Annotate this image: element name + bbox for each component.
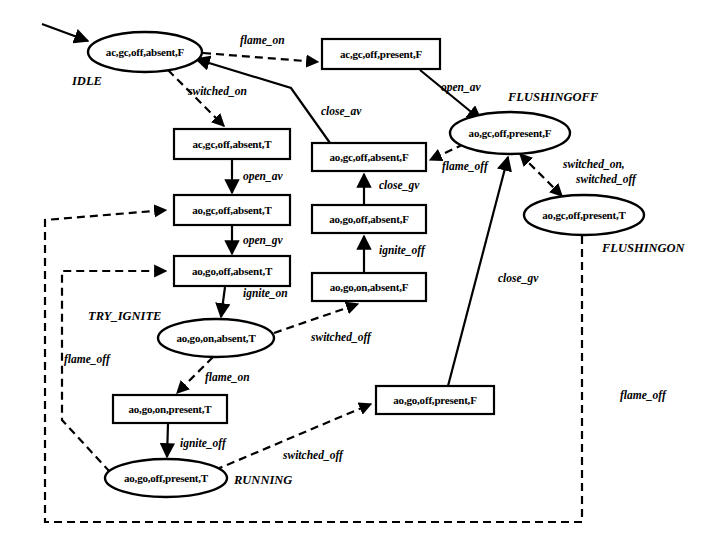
idle-label: ac,gc,off,absent,F (106, 46, 185, 58)
edge-label-switched-on-2: switched_on, (562, 158, 625, 170)
edge-label-flame-on-2: flame_on (205, 371, 250, 384)
edge-label-close-gv-1: close_gv (379, 179, 420, 192)
edge-switched-on-idle (168, 70, 224, 126)
state-name-running: RUNNING (233, 473, 292, 487)
ao-gc-absent-t-label: ao,gc,off,absent,T (192, 204, 272, 216)
edge-open-av-1 (420, 70, 481, 120)
state-node-ao-go-on-absent-f[interactable]: ao,go,on,absent,F (312, 273, 426, 301)
state-node-ac-gc-off-absent-t[interactable]: ac,gc,off,absent,T (174, 129, 290, 159)
state-node-idle[interactable]: ac,gc,off,absent,F (88, 32, 202, 72)
state-name-flushingoff: FLUSHINGOFF (507, 90, 599, 104)
state-node-running[interactable]: ao,go,off,present,T (105, 459, 227, 497)
state-node-flushingon[interactable]: ao,gc,off,present,T (524, 195, 644, 235)
state-node-flushingoff[interactable]: ao,gc,off,present,F (450, 112, 570, 154)
state-node-ao-go-off-absent-t[interactable]: ao,go,off,absent,T (174, 256, 290, 286)
edge-label-flame-off-3: flame_off (620, 389, 667, 402)
edge-label-open-av-1: open_av (441, 81, 482, 94)
ao-gc-absent-f-label: ao,gc,off,absent,F (330, 151, 409, 163)
state-node-ao-go-off-present-f[interactable]: ao,go,off,present,F (376, 386, 494, 414)
state-transition-diagram: flame_on switched_on open_av close_av op… (0, 0, 717, 558)
edge-label-switched-off-3: switched_off (282, 449, 344, 462)
edge-label-flame-on-1: flame_on (240, 34, 285, 47)
state-node-try-ignite[interactable]: ao,go,on,absent,T (158, 319, 274, 357)
state-node-ac-gc-off-present-f[interactable]: ac,gc,off,present,F (322, 39, 440, 69)
edge-label-switched-on-1: switched_on (187, 85, 247, 97)
edge-label-open-av-2: open_av (243, 170, 284, 183)
state-name-idle: IDLE (71, 74, 102, 88)
edge-flame-off-1 (430, 144, 464, 160)
state-node-ao-gc-off-absent-t[interactable]: ao,gc,off,absent,T (174, 195, 290, 225)
flushingoff-label: ao,gc,off,present,F (469, 127, 552, 139)
edge-switched-off-1 (274, 304, 358, 333)
edge-ignite-off-1 (167, 424, 168, 457)
edge-label-switched-off-2: switched_off (575, 173, 637, 186)
ao-go-on-abs-f-label: ao,go,on,absent,F (330, 281, 409, 293)
edge-label-open-gv: open_gv (243, 234, 284, 247)
ao-go-off-pres-f-label: ao,go,off,present,F (393, 394, 477, 406)
ao-go-on-pres-label: ao,go,on,present,T (129, 403, 213, 415)
edge-label-close-gv-2: close_gv (498, 272, 539, 285)
edge-ignite-on (221, 287, 225, 317)
edge-flame-on-idle (203, 53, 318, 62)
ao-go-absent-f-label: ao,go,off,absent,F (329, 213, 409, 225)
ac-absent-t-label: ac,gc,off,absent,T (193, 138, 273, 150)
ac-present-f-label: ac,gc,off,present,F (340, 48, 423, 60)
state-name-flushingon: FLUSHINGON (601, 241, 686, 255)
flushingon-label: ao,gc,off,present,T (542, 209, 626, 221)
edge-label-ignite-on: ignite_on (243, 287, 288, 300)
state-node-ao-go-on-present-t[interactable]: ao,go,on,present,T (113, 395, 227, 423)
edge-label-flame-off-1: flame_off (442, 160, 489, 173)
diagram-canvas: flame_on switched_on open_av close_av op… (0, 0, 717, 558)
edge-label-ignite-off-2: ignite_off (379, 244, 426, 257)
state-name-try-ignite: TRY_IGNITE (88, 309, 161, 323)
edge-switched-on-off (520, 154, 562, 196)
edge-initial-arrow (42, 24, 88, 41)
edge-label-flame-off-2: flame_off (64, 353, 111, 366)
edge-label-ignite-off-1: ignite_off (180, 437, 227, 450)
edge-flame-off-2 (62, 271, 166, 472)
edge-label-close-av: close_av (321, 105, 362, 117)
edge-label-switched-off-1: switched_off (310, 331, 372, 344)
state-node-ao-go-off-absent-f[interactable]: ao,go,off,absent,F (312, 205, 426, 233)
try-ignite-label: ao,go,on,absent,T (176, 332, 256, 344)
state-node-ao-gc-off-absent-f[interactable]: ao,gc,off,absent,F (312, 143, 426, 171)
ao-go-absent-t-label: ao,go,off,absent,T (192, 265, 273, 277)
running-label: ao,go,off,present,T (124, 472, 209, 484)
